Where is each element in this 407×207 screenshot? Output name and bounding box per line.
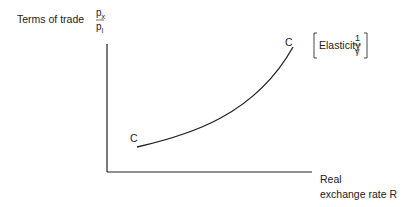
x-axis-label-line2: exchange rate R bbox=[320, 189, 397, 200]
curve-label-start: C bbox=[130, 133, 138, 144]
right-bracket bbox=[364, 33, 367, 58]
x-axis-label-line1: Real bbox=[320, 174, 342, 185]
annotation-frac-numerator: 1 bbox=[355, 34, 360, 43]
y-frac-denominator: pI bbox=[96, 22, 104, 34]
annotation-frac-denominator: γ bbox=[355, 47, 360, 56]
curve-label-end: C bbox=[285, 37, 293, 48]
curve-c bbox=[137, 47, 293, 147]
y-axis-label: Terms of trade bbox=[17, 14, 84, 25]
y-frac-numerator: px bbox=[96, 8, 105, 20]
left-bracket bbox=[314, 33, 317, 58]
diagram-canvas bbox=[0, 0, 407, 207]
